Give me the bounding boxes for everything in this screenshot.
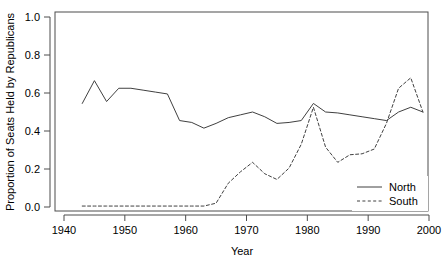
x-tick-label: 1990 xyxy=(356,224,380,236)
y-tick-label: 0.8 xyxy=(25,49,40,61)
y-tick-label: 1.0 xyxy=(25,11,40,23)
chart-legend: NorthSouth xyxy=(352,176,428,211)
x-tick-label: 1980 xyxy=(295,224,319,236)
chart-figure: 0.00.20.40.60.81.0 194019501960197019801… xyxy=(0,0,448,265)
y-tick-label: 0.6 xyxy=(25,87,40,99)
chart-svg: 0.00.20.40.60.81.0 194019501960197019801… xyxy=(0,0,448,265)
y-axis-tick-group: 0.00.20.40.60.81.0 xyxy=(25,11,50,213)
x-axis-tick-group: 1940195019601970198019902000 xyxy=(52,215,441,236)
legend-label-north: North xyxy=(389,181,416,193)
series-line-north xyxy=(82,81,423,128)
x-tick-label: 1940 xyxy=(52,224,76,236)
x-axis-title: Year xyxy=(231,245,254,257)
y-tick-label: 0.0 xyxy=(25,201,40,213)
y-tick-label: 0.4 xyxy=(25,125,40,137)
y-tick-label: 0.2 xyxy=(25,163,40,175)
x-tick-label: 2000 xyxy=(417,224,441,236)
x-tick-label: 1950 xyxy=(113,224,137,236)
x-tick-label: 1970 xyxy=(234,224,258,236)
y-axis-title: Proportion of Seats Held by Republicans xyxy=(4,12,16,211)
x-tick-label: 1960 xyxy=(173,224,197,236)
legend-label-south: South xyxy=(389,195,418,207)
